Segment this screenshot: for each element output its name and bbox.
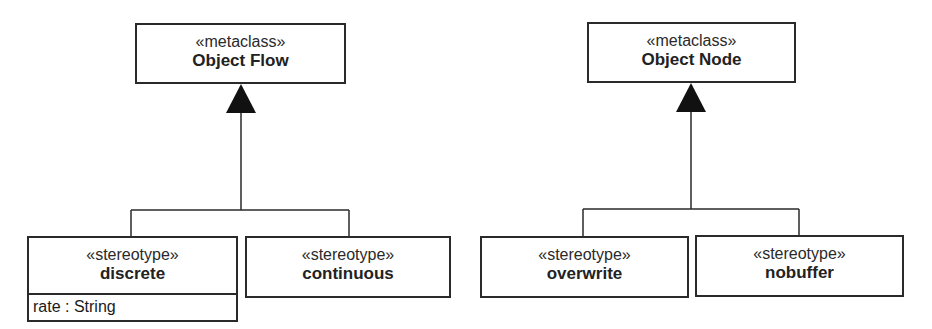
- stereotype-nobuffer[interactable]: «stereotype» nobuffer: [695, 235, 904, 297]
- class-name: nobuffer: [697, 263, 902, 283]
- metaclass-object-node[interactable]: «metaclass» Object Node: [587, 22, 796, 83]
- stereotype-label: «stereotype»: [697, 244, 902, 263]
- class-name: discrete: [29, 264, 236, 284]
- class-name: Object Flow: [137, 51, 344, 71]
- generalization-arrowhead-icon: [676, 83, 706, 112]
- class-name: overwrite: [482, 264, 687, 284]
- class-name: Object Node: [589, 50, 794, 70]
- stereotype-label: «metaclass»: [589, 31, 794, 50]
- stereotype-discrete[interactable]: «stereotype» discrete rate : String: [27, 236, 238, 322]
- metaclass-object-flow[interactable]: «metaclass» Object Flow: [135, 23, 346, 84]
- stereotype-label: «stereotype»: [482, 245, 687, 264]
- attribute-rate: rate : String: [29, 293, 236, 319]
- generalization-arrowhead-icon: [226, 84, 256, 113]
- stereotype-label: «stereotype»: [29, 245, 236, 264]
- stereotype-overwrite[interactable]: «stereotype» overwrite: [480, 236, 689, 298]
- stereotype-label: «metaclass»: [137, 32, 344, 51]
- class-name: continuous: [247, 264, 449, 284]
- stereotype-label: «stereotype»: [247, 245, 449, 264]
- stereotype-continuous[interactable]: «stereotype» continuous: [245, 236, 451, 298]
